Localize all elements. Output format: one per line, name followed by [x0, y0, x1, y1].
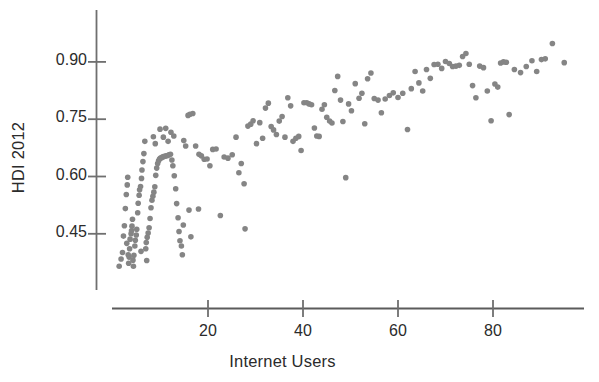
x-tick-label: 40: [273, 322, 333, 340]
x-axis-title: Internet Users: [0, 352, 599, 371]
x-tick-labels: 20406080: [0, 0, 599, 382]
x-tick-label: 80: [463, 322, 523, 340]
y-axis-title: HDI 2012: [9, 103, 28, 213]
x-axis-title-text: Internet Users: [229, 352, 335, 371]
x-tick-label: 60: [368, 322, 428, 340]
scatter-chart: 0.450.600.750.90 20406080 HDI 2012 Inter…: [0, 0, 599, 382]
x-tick-label: 20: [178, 322, 238, 340]
